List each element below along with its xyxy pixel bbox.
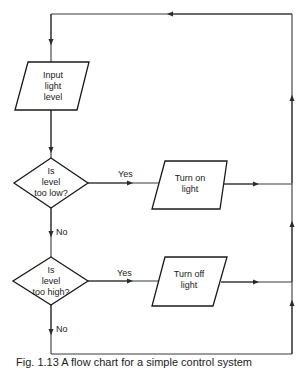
node-input-line-1: Input: [43, 70, 63, 81]
edge-label-no-1: No: [56, 227, 68, 237]
node-off-line-2: light: [181, 280, 198, 291]
edge-label-yes-1: Yes: [118, 169, 133, 179]
node-high-line-3: too high?: [32, 287, 69, 298]
node-on-line-2: light: [182, 184, 199, 195]
node-off-line-1: Turn off: [174, 269, 205, 280]
node-input-label: Input light level: [22, 66, 84, 106]
node-input-line-2: light: [45, 81, 62, 92]
node-high-line-1: Is: [47, 265, 54, 276]
node-high-label: Is level too high?: [14, 262, 88, 300]
node-low-line-1: Is: [47, 166, 54, 177]
figure-caption: Fig. 1.13 A flow chart for a simple cont…: [16, 356, 252, 368]
node-input-line-3: level: [44, 92, 63, 103]
node-off-label: Turn off light: [157, 264, 221, 296]
edge-label-yes-2: Yes: [117, 268, 132, 278]
node-low-line-3: too low?: [34, 188, 68, 199]
edge-label-no-2: No: [56, 324, 68, 334]
node-on-label: Turn on light: [158, 168, 222, 200]
node-high-line-2: level: [42, 276, 61, 287]
node-on-line-1: Turn on: [175, 173, 206, 184]
node-low-label: Is level too low?: [16, 163, 86, 201]
node-low-line-2: level: [42, 177, 61, 188]
